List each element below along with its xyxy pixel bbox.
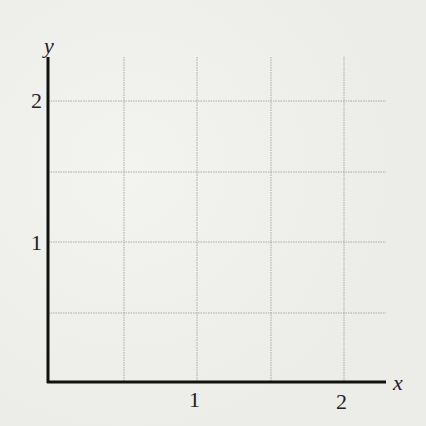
y-tick-label-2: 2 <box>31 90 42 112</box>
y-tick-label-1: 1 <box>31 232 42 254</box>
y-axis-label: y <box>44 35 54 57</box>
plot-area <box>0 0 426 426</box>
grid <box>48 57 386 382</box>
x-tick-label-1: 1 <box>189 389 200 411</box>
x-axis-label: x <box>393 372 403 394</box>
x-tick-label-2: 2 <box>336 391 347 413</box>
